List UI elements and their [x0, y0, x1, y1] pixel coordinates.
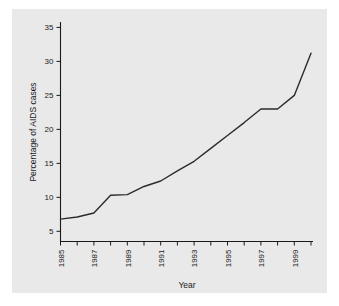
- x-tick-label: 1985: [57, 249, 66, 267]
- x-tick-label: 1991: [157, 249, 166, 267]
- x-tick-label: 1987: [90, 249, 99, 267]
- y-axis-tick-labels: 5101520253035: [45, 23, 54, 236]
- y-tick-label: 30: [45, 57, 54, 66]
- y-axis-title: Percentage of AIDS cases: [28, 82, 38, 181]
- x-axis-ticks: [61, 242, 312, 246]
- y-tick-label: 5: [49, 227, 54, 236]
- y-tick-label: 25: [45, 91, 54, 100]
- x-tick-label: 1993: [190, 249, 199, 267]
- x-tick-label: 1999: [291, 249, 300, 267]
- x-tick-label: 1995: [224, 249, 233, 267]
- x-axis-tick-labels: 19851987198919911993199519971999: [57, 249, 300, 267]
- line-chart: 5101520253035 19851987198919911993199519…: [0, 0, 339, 306]
- y-tick-label: 10: [45, 193, 54, 202]
- data-line-aids-percentage: [61, 53, 312, 219]
- figure-canvas: 5101520253035 19851987198919911993199519…: [0, 0, 339, 306]
- x-axis-title: Year: [178, 280, 195, 290]
- y-tick-label: 35: [45, 23, 54, 32]
- x-tick-label: 1989: [124, 249, 133, 267]
- y-tick-label: 15: [45, 159, 54, 168]
- y-axis-ticks: [57, 27, 61, 231]
- x-tick-label: 1997: [257, 249, 266, 267]
- y-tick-label: 20: [45, 125, 54, 134]
